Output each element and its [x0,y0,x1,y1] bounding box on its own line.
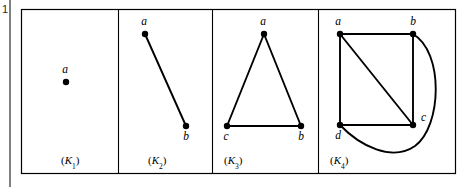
panel-K2: ab(K2) [141,15,189,171]
panel-caption-K2: (K2) [148,154,167,171]
margin-number: 1 [2,3,8,15]
vertex-b [183,123,189,129]
vertex-c [224,123,230,129]
panel-caption-K1: (K1) [61,154,80,171]
vertex-label-c: c [223,130,228,142]
vertex-c [410,122,416,128]
vertex-b [298,123,304,129]
vertex-a [142,31,148,37]
edge-a-c [227,34,264,126]
panel-K4: abcd(K4) [330,15,436,171]
vertex-label-c: c [421,111,426,123]
vertex-label-a: a [62,63,68,75]
vertex-a [63,79,69,85]
complete-graphs-diagram: 1a(K1)ab(K2)acb(K3)abcd(K4) [0,0,471,187]
vertex-d [337,122,343,128]
edge-a-c [340,34,413,125]
vertex-label-a: a [141,15,147,27]
vertex-label-a: a [260,15,266,27]
panel-caption-K3: (K3) [224,154,243,171]
vertex-label-d: d [335,129,341,141]
vertex-label-a: a [335,15,341,27]
edge-a-b [145,34,186,126]
graph-figure: 1a(K1)ab(K2)acb(K3)abcd(K4) [0,0,471,187]
vertex-b [410,31,416,37]
vertex-label-b: b [298,130,304,142]
vertex-a [337,31,343,37]
edge-a-b [264,34,301,126]
panel-caption-K4: (K4) [330,154,349,171]
vertex-label-b: b [410,15,416,27]
vertex-label-b: b [183,130,189,142]
panel-K3: acb(K3) [223,15,304,171]
panel-K1: a(K1) [61,63,80,171]
vertex-a [261,31,267,37]
